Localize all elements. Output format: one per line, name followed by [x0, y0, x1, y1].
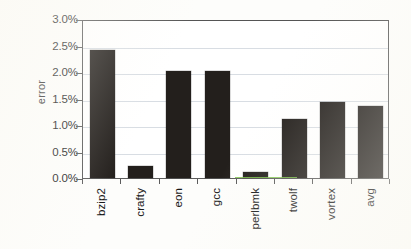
- x-label-slot: twolf: [274, 186, 312, 248]
- y-tick-mark: [76, 100, 82, 101]
- x-label-slot: crafty: [121, 186, 159, 248]
- x-tick-mark: [82, 179, 83, 184]
- y-tick-label: 0.0%: [30, 173, 78, 185]
- bar: [205, 71, 230, 178]
- y-tick-mark: [76, 153, 82, 154]
- x-tick-mark: [274, 179, 275, 184]
- scan-artifact-line: [235, 177, 297, 178]
- x-tick-mark: [236, 179, 237, 184]
- chart-figure: error 0.0%0.5%1.0%1.5%2.0%2.5%3.0% bzip2…: [0, 0, 411, 249]
- y-tick-mark: [76, 73, 82, 74]
- y-axis-tick-labels: 0.0%0.5%1.0%1.5%2.0%2.5%3.0%: [30, 14, 78, 184]
- y-tick-label: 2.0%: [30, 67, 78, 79]
- x-tick-label: eon: [172, 188, 184, 208]
- y-tick-label: 0.5%: [30, 147, 78, 159]
- x-label-slot: bzip2: [82, 186, 120, 248]
- bar: [282, 119, 307, 178]
- x-tick-label: crafty: [134, 188, 146, 217]
- x-label-slot: vortex: [312, 186, 350, 248]
- y-tick-mark: [76, 20, 82, 21]
- x-tick-label: bzip2: [95, 188, 107, 216]
- x-tick-label: gcc: [210, 188, 222, 206]
- y-tick-label: 3.0%: [30, 14, 78, 26]
- bar: [128, 166, 153, 178]
- bar: [166, 71, 191, 178]
- y-tick-label: 1.5%: [30, 94, 78, 106]
- x-tick-label: perlbmk: [249, 188, 261, 230]
- y-tick-mark: [76, 126, 82, 127]
- plot-area: [82, 20, 389, 179]
- bar-series: [83, 21, 388, 178]
- bar: [358, 106, 383, 178]
- x-axis-ticks: [82, 179, 389, 185]
- y-tick-mark: [76, 47, 82, 48]
- x-label-slot: avg: [351, 186, 389, 248]
- x-tick-mark: [197, 179, 198, 184]
- bar: [90, 50, 115, 178]
- bar: [320, 102, 345, 178]
- x-label-slot: gcc: [197, 186, 235, 248]
- x-tick-mark: [120, 179, 121, 184]
- x-axis-tick-labels: bzip2craftyeongccperlbmktwolfvortexavg: [82, 186, 389, 248]
- x-tick-mark: [159, 179, 160, 184]
- x-label-slot: eon: [159, 186, 197, 248]
- x-tick-mark: [312, 179, 313, 184]
- x-tick-label: vortex: [325, 188, 337, 220]
- y-tick-label: 1.0%: [30, 120, 78, 132]
- x-tick-label: twolf: [287, 188, 299, 212]
- y-tick-label: 2.5%: [30, 41, 78, 53]
- x-tick-mark: [351, 179, 352, 184]
- x-tick-mark: [389, 179, 390, 184]
- x-label-slot: perlbmk: [236, 186, 274, 248]
- x-tick-label: avg: [364, 188, 376, 207]
